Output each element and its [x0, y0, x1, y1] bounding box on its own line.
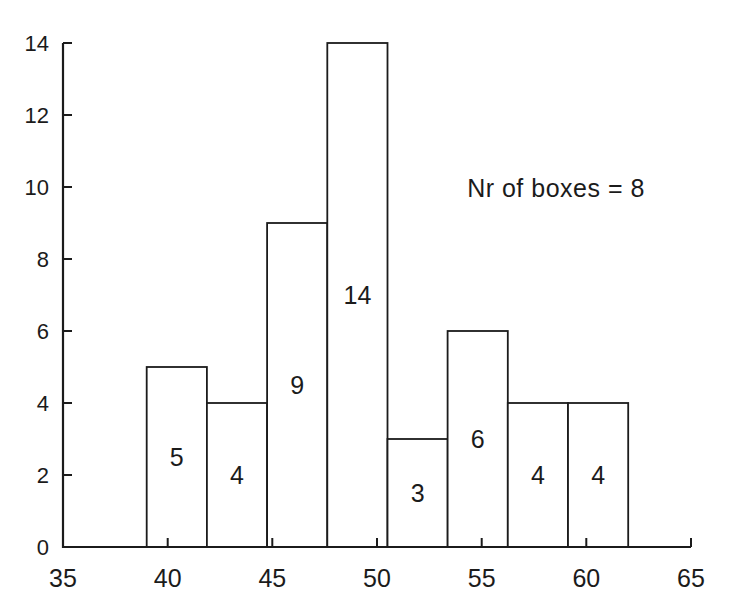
- x-tick-label: 45: [258, 564, 286, 592]
- bar-count-label: 3: [411, 479, 425, 507]
- x-tick-label: 60: [572, 564, 600, 592]
- y-tick-label: 2: [37, 463, 49, 488]
- x-tick-label: 50: [363, 564, 391, 592]
- x-tick-label: 40: [154, 564, 182, 592]
- x-tick-label: 35: [49, 564, 77, 592]
- y-tick-label: 4: [37, 391, 49, 416]
- y-tick-label: 14: [25, 31, 49, 56]
- bar-count-label: 4: [531, 461, 545, 489]
- histogram-figure: 5491436440246810121435404550556065 Nr of…: [0, 0, 732, 610]
- bar-count-label: 9: [290, 371, 304, 399]
- x-tick-label: 65: [677, 564, 705, 592]
- nr-of-boxes-annotation: Nr of boxes = 8: [467, 174, 645, 203]
- y-tick-label: 6: [37, 319, 49, 344]
- bar-count-label: 5: [170, 443, 184, 471]
- y-tick-label: 0: [37, 535, 49, 560]
- x-tick-label: 55: [468, 564, 496, 592]
- y-tick-label: 10: [25, 175, 49, 200]
- y-tick-label: 8: [37, 247, 49, 272]
- bar-count-label: 6: [471, 425, 485, 453]
- bar-count-label: 14: [343, 281, 371, 309]
- histogram-plot: 5491436440246810121435404550556065: [0, 0, 732, 610]
- y-tick-label: 12: [25, 103, 49, 128]
- bar-count-label: 4: [230, 461, 244, 489]
- bar-count-label: 4: [591, 461, 605, 489]
